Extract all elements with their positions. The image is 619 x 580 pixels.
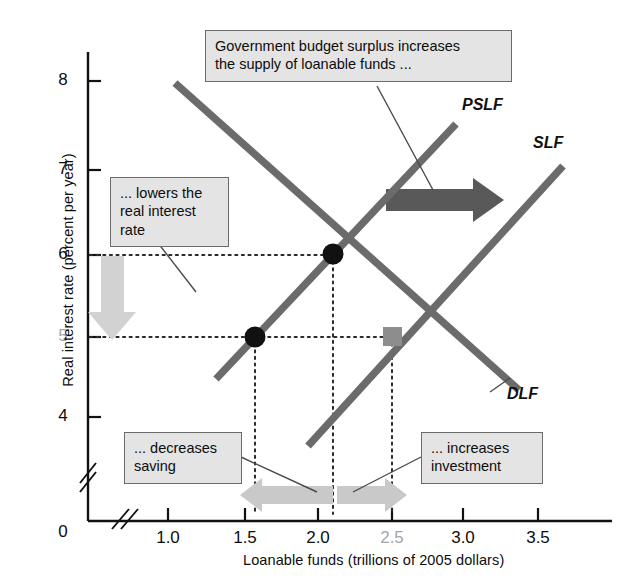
point-new-equilibrium <box>383 327 402 346</box>
curve-label-dlf: DLF <box>507 385 538 403</box>
x-tick-3-5: 3.5 <box>513 528 563 548</box>
x-tick-1-5: 1.5 <box>220 528 270 548</box>
callout-lowers-interest-rate: ... lowers the real interest rate <box>110 177 229 247</box>
curve-label-slf: SLF <box>533 134 563 152</box>
y-axis-ticks <box>88 81 101 417</box>
x-tick-2-0: 2.0 <box>293 528 343 548</box>
chart-canvas <box>0 0 619 580</box>
x-tick-2-5: 2.5 <box>367 528 417 548</box>
callout-supply-increase: Government budget surplus increases the … <box>205 30 512 82</box>
loanable-funds-figure: 8 7 6 5 4 0 1.0 1.5 2.0 2.5 3.0 3.5 Real… <box>0 0 619 580</box>
point-initial-equilibrium <box>323 244 344 265</box>
y-axis-title: Real interest rate (percent per year) <box>60 110 76 430</box>
y-tick-8: 8 <box>50 70 76 90</box>
x-tick-1-0: 1.0 <box>143 528 193 548</box>
callout-increases-investment: ... increases investment <box>421 432 543 484</box>
x-axis-title: Loanable funds (trillions of 2005 dollar… <box>243 552 504 568</box>
saving-decrease-arrow <box>240 478 333 512</box>
callout-decreases-saving: ... decreases saving <box>124 432 242 484</box>
x-tick-3-0: 3.0 <box>438 528 488 548</box>
y-tick-0: 0 <box>50 522 76 542</box>
x-axis-ticks <box>168 508 538 521</box>
point-saving-after-surplus <box>245 327 266 348</box>
interest-rate-fall-arrow <box>88 256 136 340</box>
investment-increase-arrow <box>337 478 407 512</box>
curve-label-pslf: PSLF <box>462 96 503 114</box>
